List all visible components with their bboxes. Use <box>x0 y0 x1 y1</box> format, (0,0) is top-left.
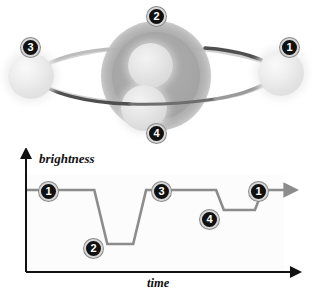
orbit-scene: 1 2 3 4 <box>0 0 312 148</box>
planet-left <box>8 53 54 99</box>
chart-badge-1a: 1 <box>39 182 58 201</box>
y-axis-label: brightness <box>39 151 95 167</box>
chart-badge-3: 3 <box>152 182 171 201</box>
scene-badge-2: 2 <box>147 7 166 26</box>
planet-right <box>258 50 304 96</box>
orbit-front-arc-mid <box>130 99 215 104</box>
x-axis-label: time <box>147 276 169 291</box>
chart-badge-2: 2 <box>84 239 103 258</box>
scene-badge-3: 3 <box>21 38 40 57</box>
diagram-canvas: 1 2 3 4 brightness time <box>0 0 312 299</box>
chart-badge-1b: 1 <box>249 182 268 201</box>
scene-badge-1: 1 <box>280 38 299 57</box>
scene-badge-4: 4 <box>147 124 166 143</box>
chart-badge-4: 4 <box>200 210 219 229</box>
light-curve-chart: brightness time 1 2 3 4 1 <box>0 148 312 299</box>
